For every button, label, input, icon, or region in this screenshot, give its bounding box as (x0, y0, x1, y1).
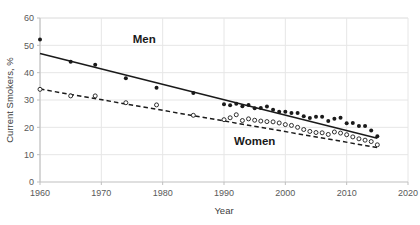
data-point-men (228, 103, 232, 107)
data-point-men (339, 116, 343, 120)
data-point-men (314, 115, 318, 119)
data-point-men (289, 111, 293, 115)
data-point-men (271, 108, 275, 112)
data-point-women (265, 120, 269, 124)
data-point-men (234, 102, 238, 106)
data-point-men (351, 121, 355, 125)
data-point-women (351, 135, 355, 139)
data-point-men (363, 124, 367, 128)
data-point-women (326, 132, 330, 136)
data-point-men (247, 103, 251, 107)
data-point-men (240, 104, 244, 108)
data-point-men (369, 129, 373, 133)
data-point-women (296, 125, 300, 129)
data-point-men (253, 106, 257, 110)
data-point-women (302, 128, 306, 132)
trendline-men (40, 54, 377, 139)
data-point-men (155, 86, 159, 90)
data-point-women (253, 118, 257, 122)
data-point-men (320, 115, 324, 119)
y-axis-tick-label: 30 (24, 95, 34, 105)
data-point-men (308, 116, 312, 120)
data-point-women (308, 129, 312, 133)
trendline-women (40, 89, 377, 147)
data-point-women (228, 116, 232, 120)
data-point-men (124, 76, 128, 80)
data-point-women (332, 130, 336, 134)
data-point-men (375, 134, 379, 138)
data-point-women (277, 121, 281, 125)
x-axis-title: Year (214, 205, 233, 216)
data-point-women (357, 137, 361, 141)
smoking-prevalence-chart: 0102030405060196019701980199020002010202… (0, 0, 420, 225)
data-point-women (247, 117, 251, 121)
data-point-men (69, 60, 73, 64)
x-axis-tick-label: 2010 (337, 188, 357, 198)
data-point-women (363, 138, 367, 142)
data-point-women (271, 120, 275, 124)
data-point-women (375, 143, 379, 147)
y-axis-tick-label: 10 (24, 150, 34, 160)
data-point-women (124, 101, 128, 105)
data-point-women (289, 123, 293, 127)
data-point-women (191, 113, 195, 117)
x-axis-tick-label: 1970 (91, 188, 111, 198)
y-axis-tick-label: 0 (29, 177, 34, 187)
y-axis-tick-label: 20 (24, 123, 34, 133)
data-point-men (326, 119, 330, 123)
data-point-men (277, 110, 281, 114)
data-point-women (259, 119, 263, 123)
data-point-men (302, 114, 306, 118)
x-axis-tick-label: 2020 (398, 188, 418, 198)
data-point-women (345, 133, 349, 137)
x-axis-tick-label: 1960 (30, 188, 50, 198)
chart-canvas: 0102030405060196019701980199020002010202… (0, 0, 420, 225)
data-point-men (38, 38, 42, 42)
data-point-women (339, 131, 343, 135)
data-point-women (314, 131, 318, 135)
x-axis-tick-label: 1990 (214, 188, 234, 198)
data-point-men (265, 105, 269, 109)
y-axis-title: Current Smokers, % (4, 57, 15, 143)
data-point-women (240, 119, 244, 123)
y-axis-tick-label: 60 (24, 13, 34, 23)
series-label-men: Men (133, 33, 156, 45)
data-point-men (259, 106, 263, 110)
x-axis-tick-label: 1980 (153, 188, 173, 198)
data-point-women (69, 94, 73, 98)
data-point-men (357, 124, 361, 128)
data-point-women (222, 118, 226, 122)
series-label-women: Women (234, 135, 275, 147)
data-point-men (222, 102, 226, 106)
data-point-men (93, 63, 97, 67)
data-point-women (234, 113, 238, 117)
data-point-women (93, 94, 97, 98)
y-axis-tick-label: 40 (24, 68, 34, 78)
data-point-men (345, 121, 349, 125)
data-point-men (191, 91, 195, 95)
data-point-women (155, 103, 159, 107)
x-axis-tick-label: 2000 (275, 188, 295, 198)
data-point-men (296, 111, 300, 115)
data-point-women (283, 123, 287, 127)
data-point-women (320, 131, 324, 135)
y-axis-tick-label: 50 (24, 41, 34, 51)
data-point-men (283, 110, 287, 114)
data-point-men (332, 117, 336, 121)
data-point-women (369, 140, 373, 144)
data-point-women (38, 87, 42, 91)
